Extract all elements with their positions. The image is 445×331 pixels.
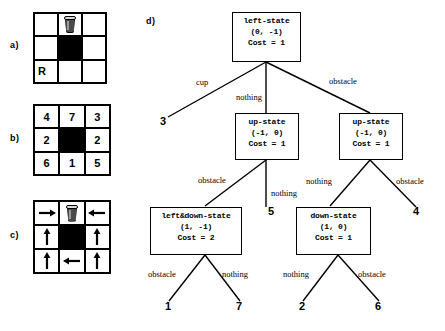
tree-edges xyxy=(0,0,445,331)
edge-label-upmid-nothing: nothing xyxy=(271,188,297,198)
node-root-coord: (0, -1) xyxy=(233,27,300,38)
tree-leaf-3: 3 xyxy=(160,115,166,127)
tree-leaf-6: 6 xyxy=(375,300,381,312)
edge-label-down-obstacle: obstacle xyxy=(358,269,386,279)
node-up-mid-coord: (-1, 0) xyxy=(236,128,298,139)
node-up-mid-cost: Cost = 1 xyxy=(236,139,298,150)
node-leftdown-coord: (1, -1) xyxy=(151,222,241,233)
node-leftdown-name: left&down-state xyxy=(151,211,241,222)
edge-label-root-nothing: nothing xyxy=(236,92,262,102)
node-down-name: down-state xyxy=(297,211,370,222)
node-leftdown-cost: Cost = 2 xyxy=(151,233,241,244)
node-root-name: left-state xyxy=(233,16,300,27)
tree-node-up-middle: up-state (-1, 0) Cost = 1 xyxy=(235,113,299,160)
node-up-right-coord: (-1, 0) xyxy=(340,128,402,139)
edge-label-upright-nothing: nothing xyxy=(306,176,332,186)
edge-label-down-nothing: nothing xyxy=(283,269,309,279)
tree-leaf-5: 5 xyxy=(268,205,274,217)
node-down-coord: (1, 0) xyxy=(297,222,370,233)
edge-label-leftdown-obstacle: obstacle xyxy=(148,269,176,279)
tree-node-left-and-down: left&down-state (1, -1) Cost = 2 xyxy=(150,207,242,255)
node-root-cost: Cost = 1 xyxy=(233,38,300,49)
edge-label-root-cup: cup xyxy=(196,77,208,87)
edge-label-leftdown-nothing: nothing xyxy=(222,269,248,279)
node-down-cost: Cost = 1 xyxy=(297,233,370,244)
tree-node-root: left-state (0, -1) Cost = 1 xyxy=(232,12,301,62)
edge-label-upright-obstacle: obstacle xyxy=(396,176,424,186)
tree-leaf-1: 1 xyxy=(165,300,171,312)
tree-leaf-2: 2 xyxy=(299,300,305,312)
edge-label-upmid-obstacle: obstacle xyxy=(198,175,226,185)
tree-leaf-4: 4 xyxy=(413,205,419,217)
node-up-right-name: up-state xyxy=(340,117,402,128)
node-up-mid-name: up-state xyxy=(236,117,298,128)
tree-node-up-right: up-state (-1, 0) Cost = 1 xyxy=(339,113,403,160)
edge-label-root-obstacle: obstacle xyxy=(329,76,357,86)
node-up-right-cost: Cost = 1 xyxy=(340,139,402,150)
tree-node-down: down-state (1, 0) Cost = 1 xyxy=(296,207,371,255)
tree-leaf-7: 7 xyxy=(236,300,242,312)
